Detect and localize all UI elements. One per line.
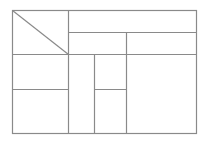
background <box>0 0 215 146</box>
table-skeleton-diagram <box>0 0 215 146</box>
